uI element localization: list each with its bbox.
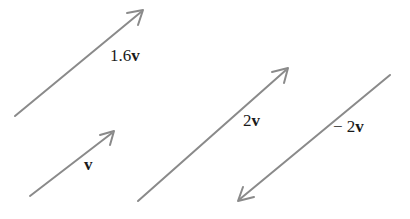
vector-diagram: 1.6v v 2v − 2v (0, 0, 410, 219)
vector-shaft-v (30, 133, 112, 196)
vector-label-v: v (84, 156, 93, 173)
vector-canvas (0, 0, 410, 219)
vector-label-2v: 2v (243, 112, 260, 129)
vector-label-1_6v: 1.6v (110, 47, 140, 64)
vector-arrow-2v (138, 68, 288, 201)
vector-label-minus-2v: − 2v (333, 118, 364, 135)
vector-shaft-minus-2v (240, 75, 390, 199)
vector-shaft-2v (138, 70, 286, 201)
vector-label-1_6v-coefficient: 1.6 (110, 46, 131, 65)
vector-label-2v-symbol: v (252, 111, 261, 130)
vector-arrow-v (30, 131, 114, 196)
vector-label-v-symbol: v (84, 155, 93, 174)
vector-label-minus-2v-symbol: v (355, 117, 364, 136)
vector-label-minus-2v-coefficient: − 2 (333, 117, 355, 136)
vector-label-2v-coefficient: 2 (243, 111, 252, 130)
vector-arrow-minus-2v (238, 75, 390, 201)
vector-label-1_6v-symbol: v (131, 46, 140, 65)
